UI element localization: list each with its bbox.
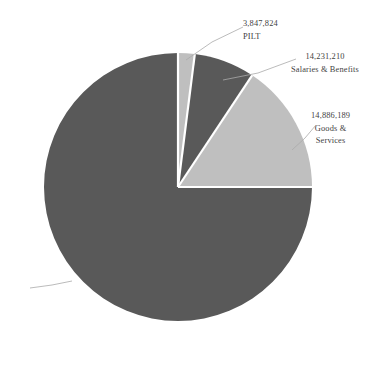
leader-line-capital [30,281,72,288]
slice-label-goods-services: 14,886,189 Goods & Services [311,110,350,148]
slice-category-goods-services-line1: Goods & [311,123,350,136]
pie-chart: 3,847,824 PILT 14,231,210 Salaries & Ben… [0,0,381,367]
slice-category-goods-services-line2: Services [311,135,350,148]
slice-value-salaries-benefits: 14,231,210 [291,51,359,64]
slice-label-salaries-benefits: 14,231,210 Salaries & Benefits [291,51,359,76]
slice-value-goods-services: 14,886,189 [311,110,350,123]
slice-label-pilt: 3,847,824 PILT [243,18,279,43]
slice-value-pilt: 3,847,824 [243,18,279,31]
slice-category-salaries-benefits: Salaries & Benefits [291,64,359,77]
slice-category-pilt: PILT [243,31,279,44]
bottom-caption-strip [34,352,344,361]
